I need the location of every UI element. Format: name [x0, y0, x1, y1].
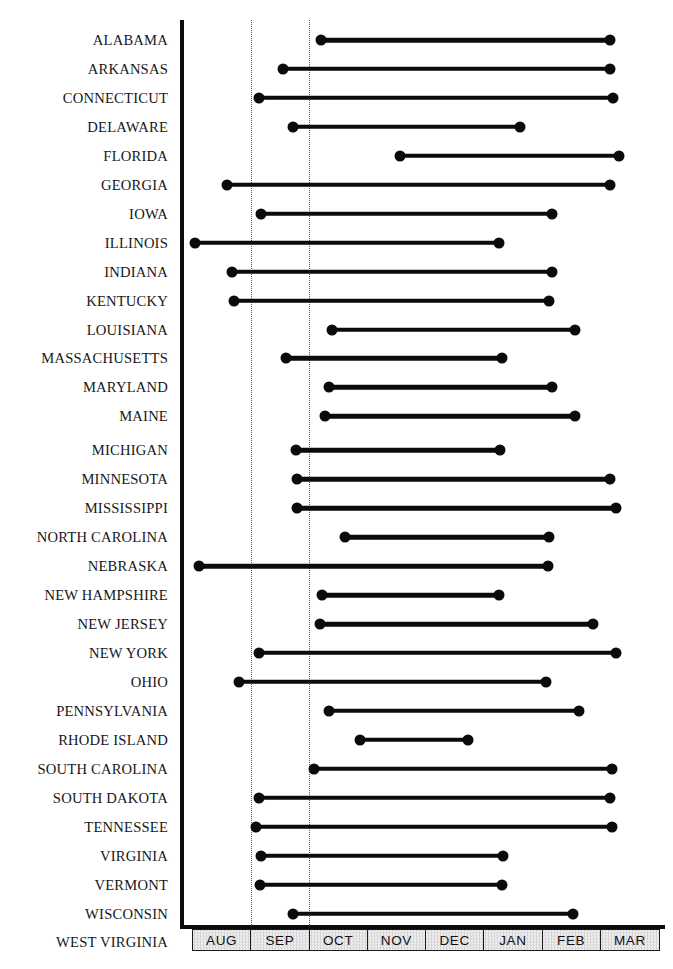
- range-bar: [227, 183, 610, 188]
- range-end-marker: [463, 734, 474, 745]
- range-row[interactable]: [180, 702, 665, 720]
- month-tick-sep[interactable]: SEP: [251, 930, 309, 950]
- month-tick-aug[interactable]: AUG: [193, 930, 251, 950]
- range-start-marker: [254, 792, 265, 803]
- category-label: KENTUCKY: [86, 293, 168, 308]
- range-row[interactable]: [180, 818, 665, 836]
- range-row[interactable]: [180, 60, 665, 78]
- category-label: ILLINOIS: [105, 235, 168, 250]
- range-row[interactable]: [180, 470, 665, 488]
- range-start-marker: [256, 850, 267, 861]
- range-bar: [296, 448, 500, 453]
- range-row[interactable]: [180, 292, 665, 310]
- range-row[interactable]: [180, 615, 665, 633]
- month-tick-feb[interactable]: FEB: [543, 930, 601, 950]
- range-row[interactable]: [180, 147, 665, 165]
- range-bar: [234, 298, 549, 303]
- range-start-marker: [254, 92, 265, 103]
- range-start-marker: [226, 266, 237, 277]
- month-tick-dec[interactable]: DEC: [426, 930, 484, 950]
- month-tick-oct[interactable]: OCT: [310, 930, 368, 950]
- range-row[interactable]: [180, 263, 665, 281]
- range-end-marker: [605, 179, 616, 190]
- range-row[interactable]: [180, 586, 665, 604]
- range-bar: [286, 356, 502, 361]
- range-row[interactable]: [180, 644, 665, 662]
- range-start-marker: [308, 763, 319, 774]
- range-bar: [314, 767, 612, 772]
- range-row[interactable]: [180, 876, 665, 894]
- month-tick-mar[interactable]: MAR: [601, 930, 659, 950]
- range-end-marker: [570, 411, 581, 422]
- category-label: SOUTH CAROLINA: [38, 761, 169, 776]
- range-start-marker: [315, 35, 326, 46]
- range-bar: [321, 38, 611, 43]
- category-label: NEBRASKA: [88, 559, 168, 574]
- range-bar: [199, 564, 548, 569]
- range-start-marker: [292, 503, 303, 514]
- category-label: MASSACHUSETTS: [41, 351, 168, 366]
- range-start-marker: [287, 121, 298, 132]
- range-row[interactable]: [180, 31, 665, 49]
- range-chart: ALABAMAARKANSASCONNECTICUTDELAWAREFLORID…: [0, 0, 673, 969]
- range-end-marker: [494, 237, 505, 248]
- range-bar: [320, 622, 593, 627]
- category-label: IOWA: [129, 206, 168, 221]
- range-row[interactable]: [180, 378, 665, 396]
- range-row[interactable]: [180, 441, 665, 459]
- range-row[interactable]: [180, 118, 665, 136]
- range-row[interactable]: [180, 407, 665, 425]
- range-row[interactable]: [180, 789, 665, 807]
- range-row[interactable]: [180, 234, 665, 252]
- range-end-marker: [611, 503, 622, 514]
- category-label: NEW HAMPSHIRE: [44, 588, 168, 603]
- category-axis-labels: ALABAMAARKANSASCONNECTICUTDELAWAREFLORID…: [0, 0, 176, 927]
- range-row[interactable]: [180, 499, 665, 517]
- range-row[interactable]: [180, 349, 665, 367]
- range-end-marker: [570, 324, 581, 335]
- category-label: ARKANSAS: [88, 62, 168, 77]
- range-bar: [259, 651, 616, 656]
- range-row[interactable]: [180, 673, 665, 691]
- range-start-marker: [254, 647, 265, 658]
- range-end-marker: [546, 266, 557, 277]
- range-start-marker: [327, 324, 338, 335]
- category-label: PENNSYLVANIA: [56, 704, 168, 719]
- category-label: ALABAMA: [93, 33, 168, 48]
- range-bar: [329, 385, 551, 390]
- range-start-marker: [189, 237, 200, 248]
- range-row[interactable]: [180, 731, 665, 749]
- range-start-marker: [324, 705, 335, 716]
- category-label: MINNESOTA: [81, 472, 168, 487]
- range-row[interactable]: [180, 905, 665, 923]
- range-row[interactable]: [180, 847, 665, 865]
- range-start-marker: [314, 619, 325, 630]
- range-row[interactable]: [180, 176, 665, 194]
- range-row[interactable]: [180, 760, 665, 778]
- range-bar: [195, 240, 499, 245]
- range-bar: [260, 882, 502, 887]
- range-start-marker: [277, 63, 288, 74]
- range-start-marker: [292, 474, 303, 485]
- range-end-marker: [605, 35, 616, 46]
- month-tick-jan[interactable]: JAN: [484, 930, 542, 950]
- range-bar: [325, 414, 575, 419]
- range-end-marker: [614, 150, 625, 161]
- range-row[interactable]: [180, 321, 665, 339]
- range-start-marker: [222, 179, 233, 190]
- range-bar: [283, 67, 611, 72]
- range-row[interactable]: [180, 205, 665, 223]
- range-start-marker: [320, 411, 331, 422]
- range-end-marker: [540, 676, 551, 687]
- range-row[interactable]: [180, 528, 665, 546]
- range-start-marker: [394, 150, 405, 161]
- range-start-marker: [251, 821, 262, 832]
- category-label: INDIANA: [104, 264, 168, 279]
- range-row[interactable]: [180, 557, 665, 575]
- range-end-marker: [587, 619, 598, 630]
- range-row[interactable]: [180, 89, 665, 107]
- month-tick-nov[interactable]: NOV: [368, 930, 426, 950]
- range-end-marker: [497, 879, 508, 890]
- range-end-marker: [605, 474, 616, 485]
- range-start-marker: [324, 382, 335, 393]
